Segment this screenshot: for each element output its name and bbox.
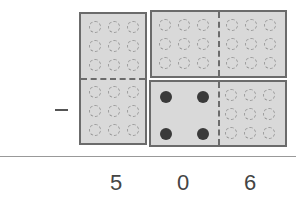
group-divider — [81, 78, 145, 80]
answer-rule — [0, 156, 296, 157]
empty-circle-icon — [108, 105, 120, 117]
empty-circle-icon — [89, 59, 101, 71]
bottom-right-block — [149, 80, 287, 147]
empty-circle-icon — [108, 86, 120, 98]
empty-circle-icon — [89, 40, 101, 52]
empty-circle-icon — [264, 38, 276, 50]
empty-circle-icon — [127, 21, 139, 33]
left-tall-block — [79, 12, 147, 145]
empty-circle-icon — [264, 19, 276, 31]
empty-circle-icon — [89, 105, 101, 117]
empty-circle-icon — [245, 19, 257, 31]
empty-circle-icon — [226, 19, 238, 31]
answer-digit-tens: 0 — [173, 170, 193, 196]
empty-circle-icon — [159, 38, 171, 50]
empty-circle-icon — [108, 21, 120, 33]
empty-circle-icon — [178, 19, 190, 31]
empty-circle-icon — [263, 108, 275, 120]
empty-circle-icon — [127, 86, 139, 98]
empty-circle-icon — [197, 19, 209, 31]
empty-circle-icon — [108, 59, 120, 71]
empty-circle-icon — [263, 127, 275, 139]
empty-circle-icon — [244, 89, 256, 101]
empty-circle-icon — [263, 89, 275, 101]
filled-dot-icon — [160, 128, 172, 140]
empty-circle-icon — [244, 127, 256, 139]
empty-circle-icon — [178, 57, 190, 69]
empty-circle-icon — [226, 38, 238, 50]
top-right-block — [150, 10, 287, 78]
empty-circle-icon — [89, 86, 101, 98]
empty-circle-icon — [108, 40, 120, 52]
minus-sign — [55, 109, 68, 111]
empty-circle-icon — [225, 89, 237, 101]
group-divider — [218, 82, 220, 145]
group-divider — [218, 12, 220, 76]
filled-dot-icon — [197, 128, 209, 140]
empty-circle-icon — [197, 38, 209, 50]
empty-circle-icon — [89, 124, 101, 136]
empty-circle-icon — [127, 40, 139, 52]
empty-circle-icon — [245, 38, 257, 50]
empty-circle-icon — [159, 57, 171, 69]
empty-circle-icon — [264, 57, 276, 69]
empty-circle-icon — [159, 19, 171, 31]
empty-circle-icon — [226, 57, 238, 69]
empty-circle-icon — [225, 108, 237, 120]
empty-circle-icon — [127, 59, 139, 71]
answer-digit-hundreds: 5 — [106, 170, 126, 196]
empty-circle-icon — [245, 57, 257, 69]
empty-circle-icon — [89, 21, 101, 33]
empty-circle-icon — [178, 38, 190, 50]
empty-circle-icon — [127, 105, 139, 117]
empty-circle-icon — [244, 108, 256, 120]
filled-dot-icon — [160, 91, 172, 103]
answer-digit-ones: 6 — [240, 170, 260, 196]
empty-circle-icon — [108, 124, 120, 136]
empty-circle-icon — [197, 57, 209, 69]
filled-dot-icon — [197, 91, 209, 103]
empty-circle-icon — [225, 127, 237, 139]
empty-circle-icon — [127, 124, 139, 136]
